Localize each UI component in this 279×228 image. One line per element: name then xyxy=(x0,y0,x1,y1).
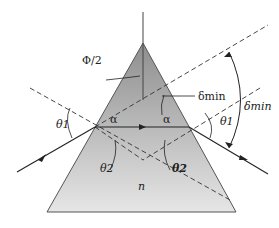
label-theta1-left: θ1 xyxy=(56,118,70,131)
label-apex-angle: Φ/2 xyxy=(82,54,102,67)
label-theta1-right: θ1 xyxy=(220,115,234,128)
label-delta-min-inner: δmin xyxy=(198,90,226,103)
label-theta2-left: θ2 xyxy=(100,162,114,175)
label-alpha-left: α xyxy=(110,113,118,126)
label-theta2-right: θ2 xyxy=(172,162,187,175)
label-alpha-right: α xyxy=(163,113,171,126)
label-delta-min-outer: δmin xyxy=(244,100,272,113)
label-index-n: n xyxy=(138,180,145,193)
prism-diagram: Φ/2 δmin δmin θ1 θ1 α α θ2 θ2 n xyxy=(0,0,279,228)
